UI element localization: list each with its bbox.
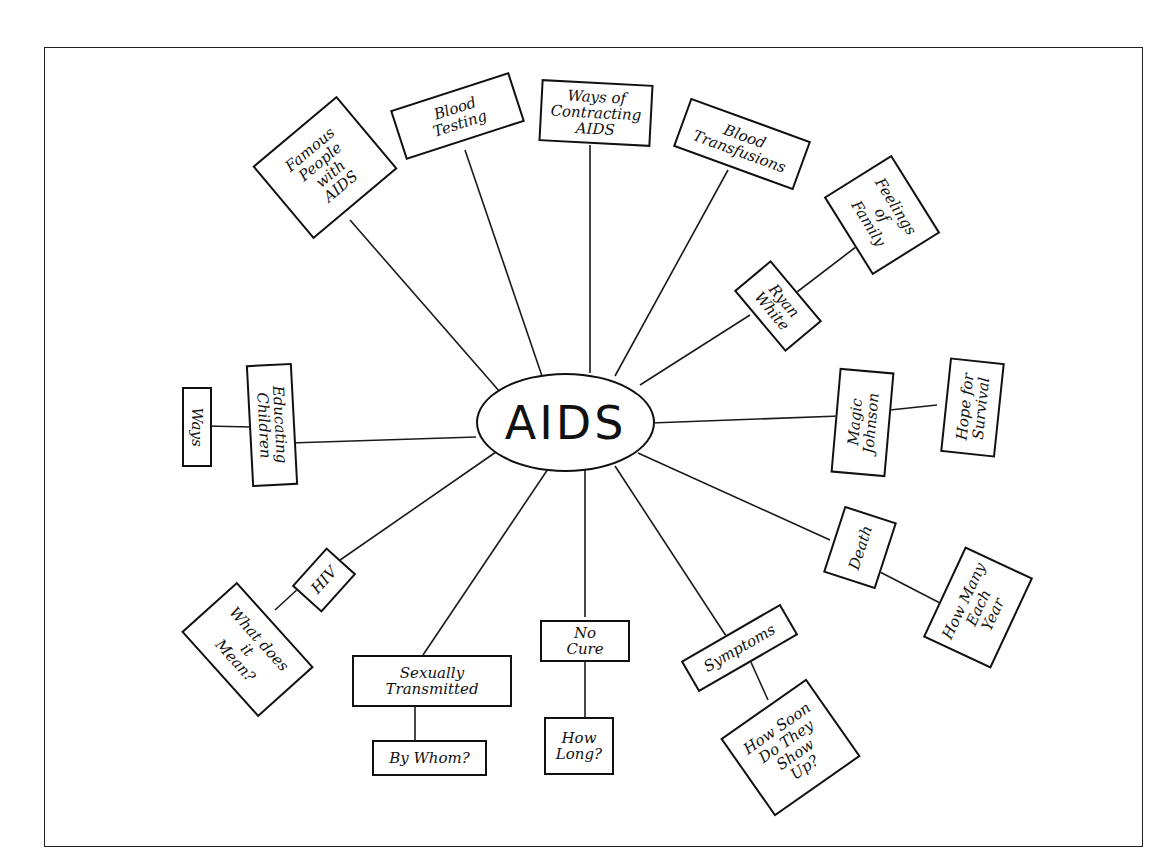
node-by-whom: By Whom? — [372, 740, 487, 776]
node-magic-johnson: Magic Johnson — [831, 368, 895, 477]
node-educating-children: Educating Children — [246, 363, 298, 487]
node-hope-for-survival: Hope for Survival — [940, 357, 1005, 457]
central-node-aids: AIDS — [476, 373, 655, 472]
node-sexually-transmitted: Sexually Transmitted — [352, 655, 512, 707]
node-no-cure: No Cure — [540, 620, 630, 662]
node-ways: Ways — [182, 387, 212, 467]
node-ways-of-contracting: Ways of Contracting AIDS — [538, 79, 653, 147]
node-how-long: How Long? — [544, 717, 614, 775]
